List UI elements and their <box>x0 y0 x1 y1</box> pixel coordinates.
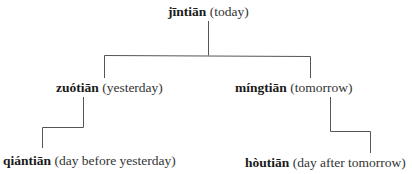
term-mingtian: míngtiān <box>235 80 287 95</box>
gloss-yesterday: (yesterday) <box>102 80 163 95</box>
node-today: jīntiān (today) <box>168 4 249 20</box>
gloss-day-before-yesterday: (day before yesterday) <box>54 153 175 168</box>
term-zuotian: zuótiān <box>56 80 99 95</box>
node-yesterday: zuótiān (yesterday) <box>56 80 163 96</box>
term-jintian: jīntiān <box>168 4 206 19</box>
gloss-day-after-tomorrow: (day after tomorrow) <box>293 155 406 170</box>
gloss-tomorrow: (tomorrow) <box>290 80 352 95</box>
node-tomorrow: míngtiān (tomorrow) <box>235 80 352 96</box>
node-day-after-tomorrow: hòutiān (day after tomorrow) <box>245 155 406 171</box>
gloss-today: (today) <box>210 4 249 19</box>
term-houtian: hòutiān <box>245 155 289 170</box>
term-qiantian: qiántiān <box>3 153 51 168</box>
branch-horizontal <box>105 56 311 57</box>
node-day-before-yesterday: qiántiān (day before yesterday) <box>3 153 176 169</box>
